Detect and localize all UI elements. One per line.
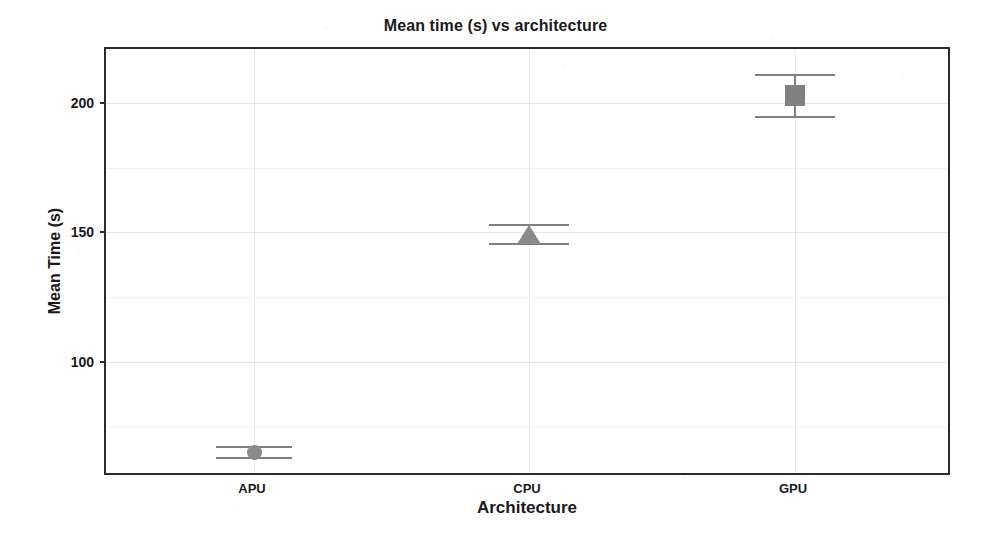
error-bar-cap-lower-gpu (755, 116, 835, 118)
gridline-y-minor-175 (106, 168, 948, 169)
y-axis-label-container: Mean Time (s) (40, 47, 70, 475)
y-tick-label-100: 100 (42, 354, 94, 370)
gridline-y-minor-75 (106, 427, 948, 428)
gridline-y-200 (106, 103, 948, 104)
x-tick-label-gpu: GPU (748, 481, 838, 496)
marker-circle-apu (247, 445, 262, 460)
y-axis-label: Mean Time (s) (46, 141, 64, 381)
plot-area (104, 47, 950, 475)
marker-square-gpu (785, 85, 805, 106)
y-tick-label-200: 200 (42, 95, 94, 111)
gridline-y-minor-125 (106, 297, 948, 298)
gridline-y-100 (106, 362, 948, 363)
chart-title: Mean time (s) vs architecture (0, 17, 991, 35)
y-tick-label-150: 150 (42, 224, 94, 240)
gridline-x-apu (254, 49, 255, 473)
marker-triangle-cpu (517, 225, 541, 244)
gridline-x-cpu (529, 49, 530, 473)
x-tick-label-apu: APU (207, 481, 297, 496)
x-axis-label: Architecture (104, 498, 950, 518)
x-tick-label-cpu: CPU (482, 481, 572, 496)
error-bar-cap-upper-gpu (755, 74, 835, 76)
